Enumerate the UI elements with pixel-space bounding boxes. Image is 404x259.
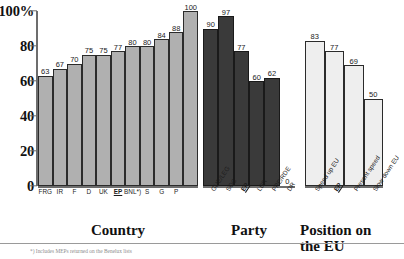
x-axis-tick-label: EP bbox=[333, 182, 343, 193]
y-axis-tick-mark bbox=[30, 10, 37, 11]
x-axis-tick-label: BNL*) bbox=[124, 189, 141, 195]
bar-value-label: 84 bbox=[157, 32, 165, 40]
bar-value-label: 75 bbox=[99, 47, 107, 55]
bar: 60 bbox=[249, 81, 264, 186]
bar-value-label: 83 bbox=[311, 33, 319, 41]
bar-value-label: 77 bbox=[237, 44, 245, 52]
bar-value-label: 60 bbox=[252, 74, 260, 82]
bar-value-label: 67 bbox=[56, 61, 64, 69]
x-axis-tick-label: DR bbox=[286, 181, 296, 192]
bar-value-label: 80 bbox=[143, 39, 151, 47]
bar-value-label: 88 bbox=[172, 25, 180, 33]
x-axis-tick-label: S bbox=[145, 189, 149, 195]
y-axis-tick-label: 100% bbox=[0, 4, 34, 19]
y-axis: 100%806040200 bbox=[0, 0, 34, 190]
footnote-text: *) Includes MEPs returned on the Benelux… bbox=[30, 249, 390, 255]
bar: 63 bbox=[38, 76, 53, 186]
bar: 75 bbox=[82, 55, 97, 186]
bar: 84 bbox=[154, 39, 169, 186]
bar: 75 bbox=[96, 55, 111, 186]
x-axis-tick-label: D bbox=[87, 189, 92, 195]
bar-value-label: 90 bbox=[206, 21, 214, 29]
bar: 70 bbox=[67, 64, 82, 187]
y-axis-tick-mark bbox=[30, 45, 37, 46]
bar-value-label: 62 bbox=[268, 70, 276, 78]
y-axis-tick-mark bbox=[30, 150, 37, 151]
bar: 77 bbox=[234, 51, 249, 186]
y-axis-tick-mark bbox=[30, 80, 37, 81]
x-axis-tick-label: IR bbox=[57, 189, 63, 195]
bar: 83 bbox=[305, 41, 325, 186]
bar-value-label: 63 bbox=[41, 68, 49, 76]
bar: 77 bbox=[111, 51, 126, 186]
x-axis-tick-label: G bbox=[159, 189, 164, 195]
bar-value-label: 100 bbox=[184, 4, 197, 12]
bar: 90 bbox=[203, 29, 218, 187]
bar: 80 bbox=[140, 46, 155, 186]
bar: 97 bbox=[218, 16, 233, 186]
bar: 67 bbox=[53, 69, 68, 186]
x-axis-tick-label: EP bbox=[114, 189, 123, 195]
bar: 88 bbox=[169, 32, 184, 186]
y-axis-tick-mark bbox=[30, 115, 37, 116]
bar-group-position-on-eu: 83776950 Speed up EUEPPresent speedSlow … bbox=[305, 0, 383, 259]
bar: 69 bbox=[344, 65, 364, 186]
bar: 80 bbox=[125, 46, 140, 186]
bar-value-label: 69 bbox=[350, 58, 358, 66]
bar-value-label: 50 bbox=[369, 91, 377, 99]
x-axis-tick-label: F bbox=[72, 189, 76, 195]
x-axis-tick-label: P bbox=[174, 189, 178, 195]
bar-value-label: 77 bbox=[114, 44, 122, 52]
group-title-party: Party bbox=[209, 222, 289, 238]
bar-value-label: 70 bbox=[70, 56, 78, 64]
x-axis-tick-label: UK bbox=[99, 189, 108, 195]
bar: 100 bbox=[183, 11, 198, 186]
x-axis-tick-label: EP bbox=[240, 182, 250, 193]
group-title-country: Country bbox=[58, 222, 178, 238]
footnote-divider bbox=[0, 243, 404, 244]
bar-value-label: 75 bbox=[85, 47, 93, 55]
bar-group-country: 63677075757780808488100 FRGIRFDUKEPBNL*)… bbox=[38, 0, 198, 259]
bar-chart: 100%806040200 63677075757780808488100 FR… bbox=[0, 0, 404, 259]
y-axis-tick-mark bbox=[30, 185, 37, 186]
bar-value-label: 77 bbox=[330, 44, 338, 52]
bar-group-party: 90977760620 GUE/LEGSOCEPLDRPPE/RDEDR bbox=[203, 0, 295, 259]
bar: 62 bbox=[264, 78, 279, 187]
x-axis-tick-label: FRG bbox=[39, 189, 53, 195]
bar-value-label: 80 bbox=[128, 39, 136, 47]
bar-value-label: 97 bbox=[222, 9, 230, 17]
